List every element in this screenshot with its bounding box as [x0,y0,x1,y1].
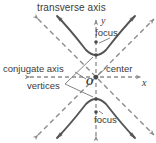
label-vertices: vertices [27,81,60,91]
leader-conjugate-axis [75,72,86,79]
label-origin: O [86,77,93,87]
vertex-bottom-point [94,97,98,101]
label-focus-bottom: focus [94,115,117,125]
vertex-top-point [94,53,98,57]
focus-top-point [94,40,98,44]
label-center: center [106,64,132,74]
diagram-title: transverse axis [37,3,106,13]
hyperbola-diagram: transverse axis conjugate axis vertices … [0,0,156,143]
label-y-axis: y [101,16,105,26]
leader-center [98,68,106,75]
leader-focus-top [99,38,110,43]
center-point [94,75,99,80]
label-conjugate-axis: conjugate axis [3,64,64,74]
label-x-axis: x [142,78,146,88]
label-focus-top: focus [95,28,118,38]
